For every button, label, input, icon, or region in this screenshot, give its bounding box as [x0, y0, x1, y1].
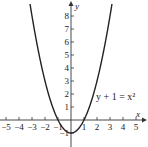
x-axis-label: x: [135, 109, 140, 119]
x-tick-label: −3: [27, 122, 37, 132]
ticks: −5−4−3−2−112345−112345678: [1, 11, 139, 138]
x-tick-label: 2: [95, 122, 100, 132]
y-tick-label: 8: [65, 11, 70, 21]
x-tick-label: −4: [14, 122, 24, 132]
parabola-chart: −5−4−3−2−112345−112345678 y + 1 = x² x y: [0, 0, 148, 147]
x-tick-label: −2: [40, 122, 50, 132]
y-tick-label: 1: [65, 102, 70, 112]
x-tick-label: 4: [121, 122, 126, 132]
x-axis-arrow-icon: [142, 118, 147, 123]
y-tick-label: 6: [65, 37, 70, 47]
x-tick-label: 3: [108, 122, 113, 132]
x-tick-label: 5: [134, 122, 139, 132]
y-tick-label: 3: [65, 76, 70, 86]
y-tick-label: 4: [65, 63, 70, 73]
y-tick-label: 2: [65, 89, 70, 99]
equation-label: y + 1 = x²: [96, 91, 135, 102]
y-axis-label: y: [74, 1, 79, 11]
y-tick-label: 7: [65, 24, 70, 34]
x-tick-label: −5: [1, 122, 11, 132]
y-tick-label: 5: [65, 50, 70, 60]
y-axis-arrow-icon: [69, 1, 74, 6]
